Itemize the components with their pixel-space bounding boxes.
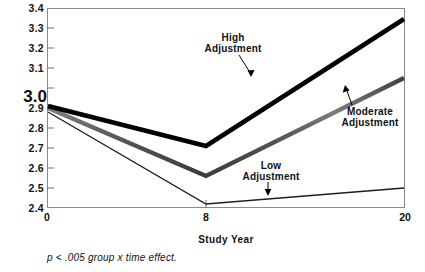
figure-container: 3.4 3.3 3.2 3.1 3.0 2.9 2.8 2.7 2.6 2.5 … (0, 0, 425, 272)
moderate-adjustment-label: Moderate Adjustment (330, 106, 410, 128)
moderate-adjustment-leader (343, 85, 352, 105)
x-axis-title: Study Year (47, 234, 405, 245)
low-adjustment-leader (265, 182, 272, 196)
low-adjustment-label: Low Adjustment (236, 160, 306, 182)
chart-footnote: p < .005 group x time effect. (47, 252, 177, 263)
high-adjustment-leader (239, 55, 255, 77)
high-adjustment-label: High Adjustment (196, 32, 270, 54)
